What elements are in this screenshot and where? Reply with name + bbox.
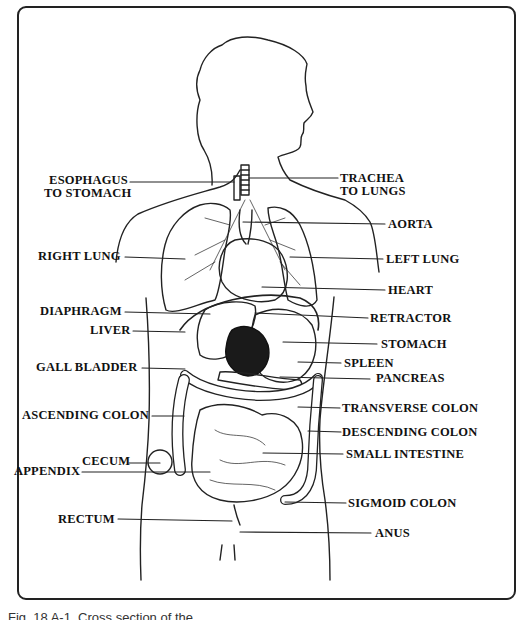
label-retractor: RETRACTOR <box>370 312 451 325</box>
label-liver: LIVER <box>90 324 131 337</box>
heart <box>219 239 287 302</box>
rectum <box>234 505 240 525</box>
label-trachea-line2: TO LUNGS <box>340 185 406 198</box>
pancreas <box>218 372 302 390</box>
torso-right-side <box>320 297 334 580</box>
label-cecum: CECUM <box>82 455 130 468</box>
left-shoulder-outline <box>116 170 240 262</box>
label-transverse-colon: TRANSVERSE COLON <box>342 402 478 415</box>
label-esophagus-line2: TO STOMACH <box>44 187 128 200</box>
label-spleen: SPLEEN <box>344 357 394 370</box>
label-stomach: STOMACH <box>381 338 447 351</box>
stomach-dark-region <box>226 326 269 376</box>
ascending-colon <box>177 380 184 470</box>
label-gall-bladder: GALL BLADDER <box>36 361 137 374</box>
label-left-lung: LEFT LUNG <box>386 253 459 266</box>
trachea-esophagus <box>234 165 249 200</box>
label-diaphragm: DIAPHRAGM <box>40 305 122 318</box>
label-right-lung: RIGHT LUNG <box>38 250 121 263</box>
label-ascending-colon: ASCENDING COLON <box>22 409 149 422</box>
label-heart: HEART <box>388 284 433 297</box>
label-rectum: RECTUM <box>58 513 115 526</box>
label-trachea: TRACHEA TO LUNGS <box>340 172 406 198</box>
label-small-intestine: SMALL INTESTINE <box>346 448 464 461</box>
label-esophagus: ESOPHAGUS TO STOMACH <box>44 174 128 200</box>
label-aorta: AORTA <box>388 218 433 231</box>
label-pancreas: PANCREAS <box>376 372 445 385</box>
figure-caption: Fig. 18 A-1. Cross section of the <box>8 609 193 620</box>
head-outline <box>197 37 379 272</box>
label-sigmoid-colon: SIGMOID COLON <box>348 497 457 510</box>
label-appendix: APPENDIX <box>14 465 80 478</box>
torso-left-side <box>140 298 149 580</box>
label-descending-colon: DESCENDING COLON <box>342 426 478 439</box>
label-anus: ANUS <box>375 527 410 540</box>
cecum <box>148 450 172 474</box>
